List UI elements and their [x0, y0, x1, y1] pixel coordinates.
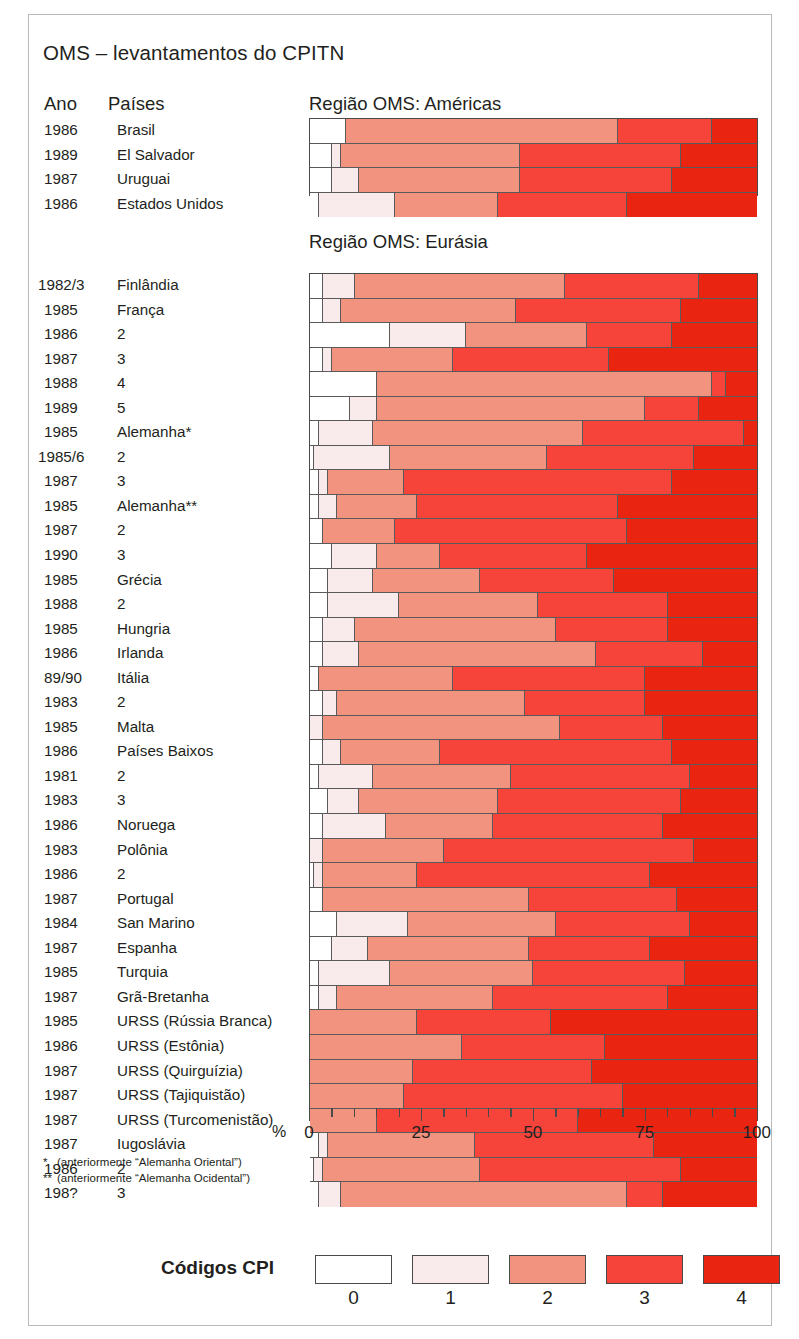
- row-year: 1987: [44, 469, 110, 494]
- bar-segment-cpi-4: [703, 642, 757, 666]
- bar-segment-cpi-3: [560, 716, 663, 740]
- bar-segment-cpi-0: [310, 961, 319, 985]
- bar-segment-cpi-0: [310, 193, 319, 218]
- bar-segment-cpi-2: [368, 937, 529, 961]
- bar-segment-cpi-2: [337, 691, 525, 715]
- bar-segment-cpi-3: [556, 912, 690, 936]
- axis-tick: [712, 1108, 713, 1117]
- bar-segment-cpi-3: [453, 667, 645, 691]
- row-label: 1987URSS (Tajiquistão): [29, 1083, 309, 1108]
- bar-segment-cpi-2: [323, 839, 444, 863]
- stacked-bar-row: [310, 937, 757, 962]
- bar-segment-cpi-0: [310, 323, 390, 347]
- bar-segment-cpi-2: [355, 274, 565, 298]
- row-country: URSS (Quirguízia): [117, 1059, 243, 1084]
- stacked-bar-row: [310, 839, 757, 864]
- row-label: 1987Uruguai: [29, 167, 309, 192]
- stacked-bar-row: [310, 495, 757, 520]
- bar-segment-cpi-1: [319, 495, 337, 519]
- bar-segment-cpi-4: [699, 274, 757, 298]
- stacked-bar-row: [310, 519, 757, 544]
- bar-segment-cpi-4: [672, 323, 757, 347]
- bar-segment-cpi-3: [493, 814, 663, 838]
- row-country: Hungria: [117, 617, 170, 642]
- row-country: Estados Unidos: [117, 192, 223, 217]
- row-year: 1988: [44, 371, 110, 396]
- stacked-bar-row: [310, 274, 757, 299]
- bar-segment-cpi-1: [332, 168, 359, 192]
- bar-segment-cpi-1: [323, 274, 354, 298]
- bar-segment-cpi-1: [314, 1158, 323, 1182]
- bar-segment-cpi-1: [319, 470, 328, 494]
- row-label: 19862: [29, 862, 309, 887]
- bar-segment-cpi-4: [690, 912, 757, 936]
- row-label-list-eurasia: 1982/3Finlândia1985França198621987319884…: [29, 273, 309, 1206]
- stacked-bar-row: [310, 1010, 757, 1035]
- row-label: 19862: [29, 322, 309, 347]
- axis-tick-label: 0: [304, 1123, 313, 1143]
- row-country: 2: [117, 322, 125, 347]
- row-country: 3: [117, 788, 125, 813]
- row-year: 1986: [44, 1034, 110, 1059]
- bar-segment-cpi-3: [511, 765, 690, 789]
- bar-segment-cpi-3: [493, 986, 667, 1010]
- bar-segment-cpi-0: [310, 986, 319, 1010]
- bar-segment-cpi-3: [498, 193, 628, 218]
- bar-segment-cpi-4: [672, 740, 757, 764]
- bar-segment-cpi-2: [337, 986, 493, 1010]
- row-label: 1986Brasil: [29, 118, 309, 143]
- legend-key-cpi-0: 0: [315, 1287, 392, 1309]
- axis-tick-label: 50: [523, 1123, 542, 1143]
- row-country: 4: [117, 371, 125, 396]
- footnote-1-text: (anteriormente “Alemanha Oriental”): [57, 1156, 242, 1168]
- bar-segment-cpi-3: [417, 495, 618, 519]
- axis-tick: [667, 1108, 668, 1117]
- row-country: Irlanda: [117, 641, 163, 666]
- row-year: 1985: [44, 960, 110, 985]
- row-year: 1987: [44, 1083, 110, 1108]
- figure-title: OMS – levantamentos do CPITN: [43, 41, 344, 65]
- bar-segment-cpi-4: [614, 569, 757, 593]
- bar-segment-cpi-4: [609, 348, 757, 372]
- row-label: 19873: [29, 469, 309, 494]
- bar-segment-cpi-0: [310, 119, 346, 143]
- row-country: 5: [117, 396, 125, 421]
- row-label-list-americas: 1986Brasil1989El Salvador1987Uruguai1986…: [29, 118, 309, 216]
- row-country: Portugal: [117, 887, 174, 912]
- bar-segment-cpi-3: [565, 274, 699, 298]
- legend-key-cpi-1: 1: [412, 1287, 489, 1309]
- bar-segment-cpi-4: [681, 299, 757, 323]
- stacked-bar-row: [310, 716, 757, 741]
- bar-segment-cpi-2: [359, 642, 596, 666]
- row-year: 1988: [44, 592, 110, 617]
- bar-segment-cpi-2: [377, 372, 712, 396]
- axis-tick: [645, 1108, 646, 1121]
- legend-swatch-cpi-2: [509, 1255, 586, 1284]
- bar-segment-cpi-0: [310, 740, 323, 764]
- stacked-bar-row: [310, 691, 757, 716]
- row-label: 1985Alemanha*: [29, 420, 309, 445]
- axis-tick: [510, 1108, 511, 1117]
- bar-segment-cpi-1: [310, 839, 323, 863]
- row-country: URSS (Rússia Branca): [117, 1009, 272, 1034]
- bar-segment-cpi-1: [350, 397, 377, 421]
- bar-segment-cpi-1: [319, 961, 391, 985]
- bar-segment-cpi-4: [677, 888, 757, 912]
- x-axis-ticks: [309, 1108, 758, 1124]
- bar-segment-cpi-2: [323, 863, 417, 887]
- row-year: 1987: [44, 518, 110, 543]
- bar-segment-cpi-1: [390, 323, 466, 347]
- bar-segment-cpi-2: [341, 1182, 627, 1207]
- stacked-bar-row: [310, 1084, 757, 1109]
- axis-tick-label: 25: [411, 1123, 430, 1143]
- bar-segment-cpi-0: [310, 593, 328, 617]
- bar-segment-cpi-1: [328, 569, 373, 593]
- row-country: 2: [117, 518, 125, 543]
- bar-segment-cpi-4: [645, 691, 757, 715]
- bar-segment-cpi-0: [310, 937, 332, 961]
- axis-tick: [555, 1108, 556, 1117]
- axis-tick: [399, 1108, 400, 1117]
- bar-segment-cpi-4: [668, 618, 757, 642]
- bar-segment-cpi-2: [359, 789, 498, 813]
- bar-segment-cpi-1: [319, 421, 373, 445]
